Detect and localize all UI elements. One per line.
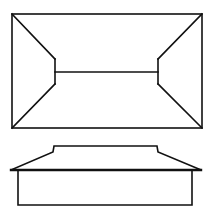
hip-line-top-right — [158, 14, 202, 59]
hip-line-top-left — [12, 14, 55, 59]
wall-box — [18, 170, 192, 205]
plan-outline — [12, 14, 202, 128]
hip-line-bottom-left — [12, 84, 55, 128]
elevation-view — [11, 146, 201, 205]
plan-view — [12, 14, 202, 128]
roof-profile — [11, 146, 201, 170]
hip-line-bottom-right — [158, 84, 202, 128]
hip-roof-diagram — [0, 0, 210, 214]
